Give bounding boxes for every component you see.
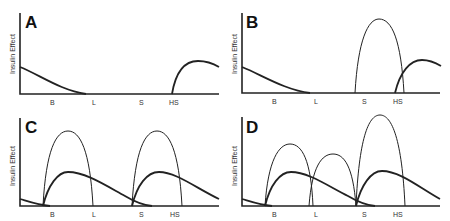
panel-d-letter: D	[246, 118, 258, 137]
panel-d-tick-hs: HS	[393, 211, 403, 218]
panel-c-breakfast-intermediate-curve	[43, 172, 152, 206]
panel-a-tick-s: S	[139, 99, 144, 106]
panel-c-breakfast-regular-arc	[43, 131, 93, 206]
panel-a-tick-hs: HS	[169, 99, 179, 106]
panel-c-supper-intermediate-curve	[132, 172, 219, 206]
panel-b-letter: B	[246, 13, 258, 32]
panel-d-supper-regular-arc	[356, 115, 405, 206]
panel-d-tick-s: S	[362, 211, 367, 218]
panel-c-tick-b: B	[50, 211, 55, 218]
panel-c-ylabel: Insulin Effect	[9, 146, 16, 186]
panel-a: A Insulin Effect B L S HS	[9, 13, 219, 106]
panel-b-tick-hs: HS	[393, 98, 403, 105]
panel-b-tick-s: S	[362, 98, 367, 105]
panel-b-ylabel: Insulin Effect	[231, 34, 238, 74]
panel-a-ylabel: Insulin Effect	[9, 34, 16, 74]
panel-a-tick-l: L	[92, 99, 96, 106]
panel-c-tick-l: L	[92, 211, 96, 218]
panel-d-tick-b: B	[272, 211, 277, 218]
panel-c-tick-s: S	[139, 211, 144, 218]
panel-a-letter: A	[25, 13, 37, 32]
panel-b-tick-l: L	[314, 98, 318, 105]
panel-b-tick-b: B	[272, 98, 277, 105]
panel-d: D Insulin Effect B L S HS	[231, 115, 440, 218]
panel-c-letter: C	[25, 118, 37, 137]
panel-c-tick-hs: HS	[170, 211, 180, 218]
panel-d-ylabel: Insulin Effect	[231, 146, 238, 186]
panel-d-supper-intermediate-curve	[356, 171, 440, 206]
panel-b: B Insulin Effect B L S HS	[231, 13, 441, 105]
panel-a-tick-b: B	[50, 99, 55, 106]
panel-c-supper-regular-arc	[132, 131, 182, 206]
panel-b-supper-arc	[355, 19, 404, 93]
panel-a-bedtime-curve	[172, 61, 219, 94]
panel-a-basal-decay-curve	[20, 67, 86, 94]
panel-c: C Insulin Effect B L S HS	[9, 118, 219, 218]
panel-b-basal-decay-curve	[242, 67, 310, 93]
panel-d-breakfast-intermediate-curve	[265, 172, 375, 206]
panel-d-tick-l: L	[314, 211, 318, 218]
insulin-regimen-figure: A Insulin Effect B L S HS B Insulin Effe…	[0, 0, 450, 221]
